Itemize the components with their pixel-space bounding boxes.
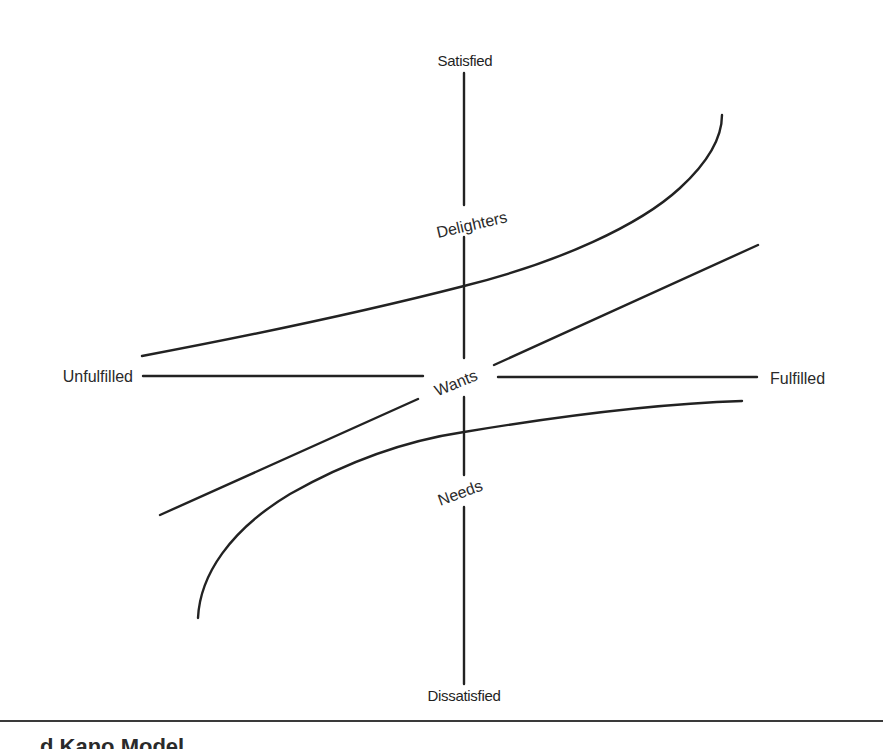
curve-label-needs: Needs (435, 477, 484, 509)
figure-caption: d Kano Model (40, 733, 184, 749)
curve-label-wants: Wants (432, 367, 480, 400)
kano-model-diagram: Satisfied Dissatisfied Unfulfilled Fulfi… (0, 0, 883, 749)
delighters-curve (142, 115, 722, 356)
caption-divider (0, 720, 883, 722)
needs-curve (198, 401, 742, 618)
axis-label-dissatisfied: Dissatisfied (427, 687, 500, 704)
diagram-canvas: Satisfied Dissatisfied Unfulfilled Fulfi… (0, 0, 883, 749)
wants-line-segment-upper (494, 245, 758, 365)
axis-label-satisfied: Satisfied (438, 52, 493, 69)
axis-label-unfulfilled: Unfulfilled (63, 368, 133, 385)
wants-line-segment-lower (160, 399, 418, 515)
axis-label-fulfilled: Fulfilled (770, 370, 825, 387)
curve-label-delighters: Delighters (435, 208, 509, 241)
